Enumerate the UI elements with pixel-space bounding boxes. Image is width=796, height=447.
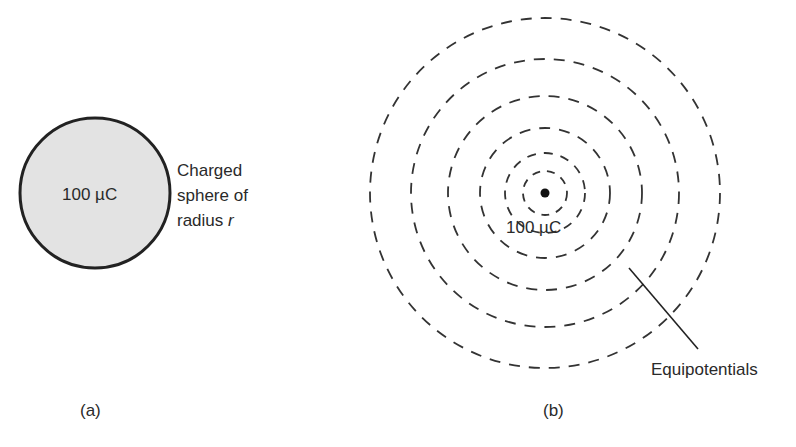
sphere-description: Charged sphere of radius r bbox=[177, 158, 248, 233]
description-line-2: sphere of bbox=[177, 183, 248, 208]
radius-variable: r bbox=[228, 211, 234, 230]
equipotentials-label: Equipotentials bbox=[651, 359, 758, 380]
caption-a: (a) bbox=[80, 400, 101, 421]
sphere-charge-label: 100 µC bbox=[62, 184, 117, 205]
description-line-3-text: radius bbox=[177, 211, 228, 230]
description-line-3: radius r bbox=[177, 208, 248, 233]
point-charge-label: 100 µC bbox=[506, 217, 561, 238]
caption-b: (b) bbox=[543, 400, 564, 421]
equipotentials-leader-line bbox=[629, 268, 698, 349]
point-charge-dot bbox=[541, 189, 550, 198]
description-line-1: Charged bbox=[177, 158, 248, 183]
